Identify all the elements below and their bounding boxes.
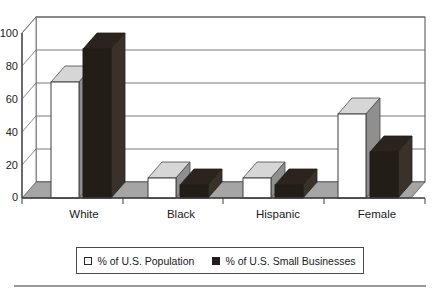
y-tick-100: 100 <box>0 27 18 39</box>
y-axis-labels: 100 80 60 40 20 0 <box>0 27 18 203</box>
bar-chart-svg: 100 80 60 40 20 0 <box>0 0 440 232</box>
cat-label-hispanic: Hispanic <box>256 208 300 220</box>
plot-left-wall <box>22 17 36 198</box>
bar-front-face <box>180 185 208 198</box>
cat-label-black: Black <box>167 208 195 220</box>
chart-legend: % of U.S. Population % of U.S. Small Bus… <box>76 247 364 274</box>
legend-item-business: % of U.S. Small Businesses <box>212 255 355 267</box>
cat-label-female: Female <box>358 208 396 220</box>
y-tick-80: 80 <box>6 60 18 72</box>
legend-swatch-open-square-icon <box>84 257 92 265</box>
chart-figure: 100 80 60 40 20 0 <box>0 0 440 296</box>
chart-plot-area: 100 80 60 40 20 0 <box>0 0 440 232</box>
y-tick-0: 0 <box>12 191 18 203</box>
bar-female-business <box>370 136 412 198</box>
y-tick-60: 60 <box>6 93 18 105</box>
legend-label-population: % of U.S. Population <box>97 255 194 267</box>
bar-white-business <box>83 33 125 198</box>
legend-label-business: % of U.S. Small Businesses <box>225 255 355 267</box>
x-axis-ticks <box>22 198 425 204</box>
footer-divider <box>14 285 426 287</box>
bar-front-face <box>338 114 366 198</box>
bar-front-face <box>148 178 176 198</box>
cat-label-white: White <box>69 208 98 220</box>
bar-front-face <box>275 185 303 198</box>
bar-front-face <box>243 178 271 198</box>
legend-item-population: % of U.S. Population <box>84 255 194 267</box>
legend-swatch-solid-square-icon <box>212 257 220 265</box>
bar-front-face <box>370 152 398 198</box>
x-axis-labels: White Black Hispanic Female <box>69 208 396 220</box>
y-tick-40: 40 <box>6 126 18 138</box>
y-tick-20: 20 <box>6 159 18 171</box>
bar-front-face <box>51 82 79 198</box>
bar-front-face <box>83 49 111 198</box>
bar-side-face <box>111 33 125 198</box>
